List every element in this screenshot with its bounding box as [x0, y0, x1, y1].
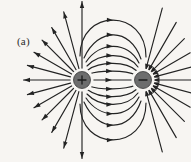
arc-upper-3: [87, 56, 138, 67]
arc-upper-1-arrowhead-icon: [106, 69, 113, 73]
arc-lower-6-arrowhead-icon: [107, 138, 114, 142]
dipole-field-diagram: [0, 0, 191, 162]
arc-lower-5-arrowhead-icon: [107, 123, 114, 127]
radial-pos-dn-15: [27, 83, 71, 95]
arc-lower-1-arrowhead-icon: [106, 87, 113, 91]
arc-upper-2: [88, 63, 137, 71]
arc-lower-1: [89, 85, 136, 89]
arc-upper-3-arrowhead-icon: [106, 53, 113, 57]
radial-pos-dn-30-arrowhead-icon: [34, 103, 41, 108]
arc-lower-3-arrowhead-icon: [106, 102, 113, 106]
radial-pos-up-60-arrowhead-icon: [52, 28, 57, 35]
arc-upper-6-arrowhead-icon: [107, 18, 114, 22]
arc-upper-1: [89, 71, 136, 75]
radial-pos-dn-90-arrowhead-icon: [80, 152, 84, 159]
radial-pos-up-30: [34, 52, 73, 74]
radial-pos-up-30-arrowhead-icon: [34, 52, 41, 57]
arc-upper-4-arrowhead-icon: [107, 44, 114, 48]
radial-pos-up-75-arrowhead-icon: [63, 12, 67, 19]
arc-lower-4-arrowhead-icon: [107, 112, 114, 116]
radial-neg-up-45: [150, 39, 184, 73]
radial-pos-left-arrowhead-icon: [24, 78, 31, 82]
radial-pos-dn-45: [42, 88, 74, 120]
arc-upper-2-arrowhead-icon: [106, 61, 113, 65]
arc-lower-2-arrowhead-icon: [106, 95, 113, 99]
dipole-axis-line: [91, 78, 134, 82]
arc-upper-6: [80, 20, 146, 57]
arc-lower-2: [88, 89, 137, 97]
radial-pos-up-45: [42, 40, 74, 72]
arc-lower-6: [80, 103, 146, 140]
radial-pos-up-15-arrowhead-icon: [27, 65, 34, 69]
radial-pos-up-90-arrowhead-icon: [80, 2, 84, 9]
radial-pos-dn-60-arrowhead-icon: [52, 126, 57, 133]
arc-lower-3: [87, 93, 138, 104]
dipole-axis-arrowhead-icon: [106, 78, 113, 82]
radial-pos-dn-75-arrowhead-icon: [63, 141, 67, 148]
figure-panel: (a): [0, 0, 191, 162]
radial-pos-up-15: [27, 65, 71, 77]
arc-upper-5-arrowhead-icon: [107, 33, 114, 37]
radial-pos-dn-30: [34, 86, 73, 108]
radial-neg-dn-45: [150, 87, 184, 121]
radial-pos-dn-15-arrowhead-icon: [27, 91, 34, 95]
